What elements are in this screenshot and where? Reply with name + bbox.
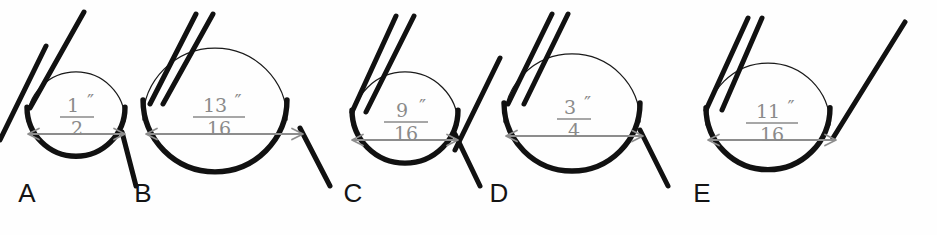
fraction-denominator-e: 16	[760, 123, 784, 145]
item-label-d: D	[490, 178, 509, 208]
fraction-numerator-a: 1	[67, 94, 79, 116]
inch-mark-e: ″	[788, 96, 795, 118]
bend-figure-svg: 1″2A13″16B9″16C3″4D11″16E	[0, 0, 937, 235]
fraction-numerator-e: 11	[756, 100, 780, 122]
inch-mark-d: ″	[584, 92, 591, 114]
fraction-numerator-d: 3	[564, 96, 576, 118]
inch-mark-b: ″	[235, 90, 242, 112]
inch-mark-c: ″	[419, 95, 426, 117]
fraction-denominator-a: 2	[71, 117, 83, 139]
item-label-c: C	[344, 178, 363, 208]
fraction-denominator-b: 16	[207, 117, 231, 139]
item-label-e: E	[693, 178, 710, 208]
item-label-a: A	[18, 178, 36, 208]
fraction-numerator-c: 9	[396, 99, 408, 121]
item-label-b: B	[134, 178, 151, 208]
fraction-denominator-d: 4	[568, 119, 580, 141]
fraction-denominator-c: 16	[394, 122, 418, 144]
bend-radius-diagram: 1″2A13″16B9″16C3″4D11″16E	[0, 0, 937, 235]
fraction-numerator-b: 13	[203, 94, 227, 116]
inch-mark-a: ″	[87, 90, 94, 112]
